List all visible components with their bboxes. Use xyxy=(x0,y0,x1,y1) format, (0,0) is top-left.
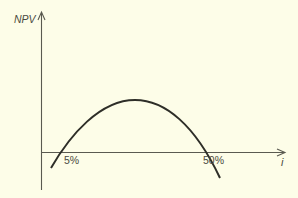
root-left-label: 5% xyxy=(64,154,79,166)
y-axis-label: NPV xyxy=(14,13,37,25)
x-axis-label: i xyxy=(281,156,284,168)
npv-curve xyxy=(51,100,220,178)
root-right-label: 50% xyxy=(203,154,224,166)
npv-chart: NPV i 5% 50% xyxy=(0,0,298,198)
